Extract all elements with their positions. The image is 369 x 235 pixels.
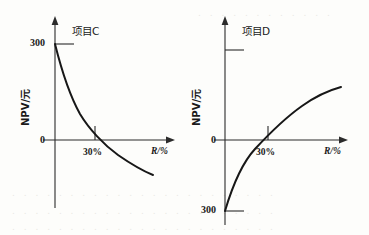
chart-c-zero-label: 0 xyxy=(40,135,45,145)
chart-c-npv-curve xyxy=(55,44,153,175)
chart-c-xaxis-label: R/% xyxy=(151,147,168,157)
figure-canvas: . . . . . . . . . . . . . . . . . . . . … xyxy=(0,0,369,235)
chart-d-title: 项目D xyxy=(242,26,270,37)
chart-d-x-axis-arrow xyxy=(339,137,348,144)
chart-d-y-axis-arrow xyxy=(222,16,229,25)
chart-d-yaxis-label: NPV/元 xyxy=(192,89,202,126)
chart-c-ytick-300-label: 300 xyxy=(30,38,45,48)
chart-c-x-axis-arrow xyxy=(166,137,175,144)
chart-c-irr-label: 30% xyxy=(83,148,102,158)
chart-c-yaxis-label: NPV/元 xyxy=(21,89,31,126)
chart-d-axes xyxy=(214,16,348,225)
figure-drawing xyxy=(0,0,369,235)
chart-c-title: 项目C xyxy=(72,26,99,37)
chart-d-xaxis-label: R/% xyxy=(324,147,341,157)
chart-d-ytick-300-label: 300 xyxy=(201,205,216,215)
chart-d-zero-label: 0 xyxy=(211,135,216,145)
chart-c-axes xyxy=(43,16,175,208)
chart-c-y-axis-arrow xyxy=(52,16,59,25)
chart-d-irr-label: 30% xyxy=(256,148,275,158)
